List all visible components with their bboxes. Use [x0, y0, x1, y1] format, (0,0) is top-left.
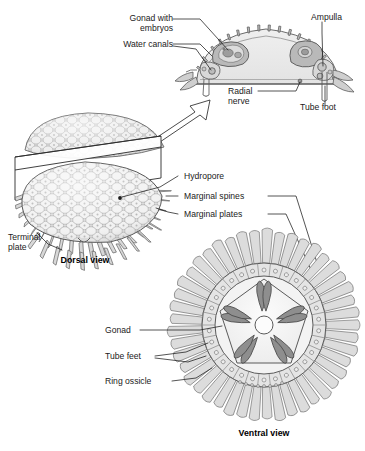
label-ring-ossicle: Ring ossicle: [105, 376, 151, 386]
central-mouth-ring: [255, 316, 273, 334]
sea-star-anatomy-figure: [0, 0, 365, 451]
gonad-with-embryos-left: [212, 42, 248, 67]
ampulla-chamber: [318, 63, 326, 71]
label-marginal-plates: Marginal plates: [184, 209, 242, 219]
label-tube-foot: Tube foot: [300, 102, 336, 112]
label-ampulla: Ampulla: [311, 12, 342, 22]
label-terminal-plate: Terminal plate: [8, 232, 40, 252]
label-hydropore: Hydropore: [184, 171, 224, 181]
label-gonad-with-embryos: Gonad with embryos: [92, 13, 173, 33]
caption-ventral-view: Ventral view: [227, 428, 301, 438]
label-radial-nerve: Radial nerve: [228, 86, 252, 106]
caption-dorsal-view: Dorsal view: [48, 255, 122, 265]
hydropore: [118, 196, 122, 200]
dorsal-dome-main: [22, 162, 162, 242]
label-marginal-spines: Marginal spines: [184, 191, 244, 201]
label-gonad-ventral: Gonad: [105, 325, 131, 335]
label-water-canals: Water canals: [92, 39, 173, 49]
label-tube-feet: Tube feet: [105, 351, 141, 361]
